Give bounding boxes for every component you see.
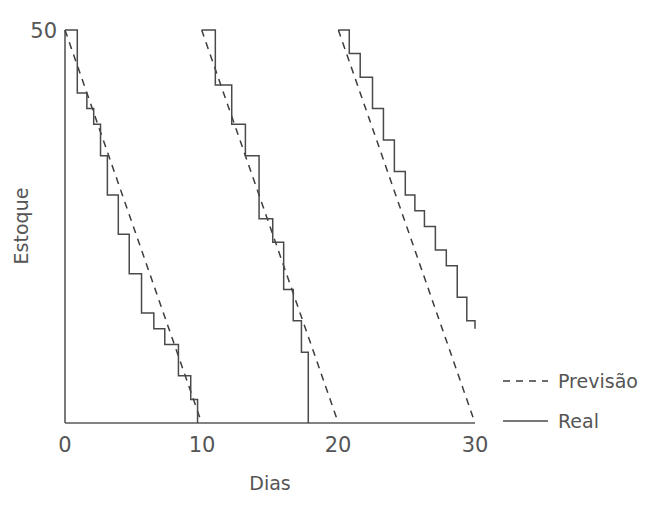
chart-canvas: 50 0 10 20 30 Dias Estoque Previsão Real [0,0,665,510]
legend-label-real: Real [558,410,599,432]
x-axis-tick-label: 0 [58,433,71,457]
real-step-line [338,30,475,329]
x-axis-tick-label: 30 [462,433,489,457]
real-step-line [65,30,198,423]
legend-label-previsao: Previsão [558,370,638,392]
inventory-chart: 50 0 10 20 30 Dias Estoque Previsão Real [0,0,665,510]
x-axis-tick-label: 20 [325,433,352,457]
x-axis-tick-label: 10 [189,433,216,457]
forecast-series [65,30,475,423]
forecast-line-segment [202,30,339,423]
chart-legend: Previsão Real [503,370,638,432]
forecast-line-segment [65,30,202,423]
x-axis-title: Dias [249,472,290,494]
forecast-line-segment [338,30,475,423]
real-step-line [202,30,309,423]
y-axis-title: Estoque [10,188,32,265]
y-axis-tick-label: 50 [30,19,57,43]
